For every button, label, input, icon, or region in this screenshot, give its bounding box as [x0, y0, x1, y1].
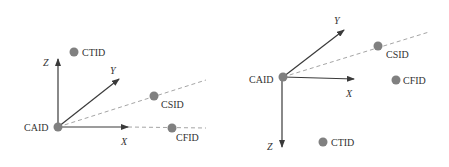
right-point-csid: [374, 42, 383, 51]
left-frame: Z Y X CAID CTID CSID CFID: [24, 47, 206, 147]
left-dashed-line-csid: [58, 80, 206, 127]
left-origin-label: CAID: [24, 122, 48, 133]
left-dashed-line-cfid: [128, 127, 206, 128]
right-z-label: Z: [267, 141, 273, 152]
right-x-label: X: [345, 88, 353, 99]
left-y-axis: [58, 79, 119, 127]
right-label-csid: CSID: [386, 49, 409, 60]
left-label-csid: CSID: [161, 99, 184, 110]
right-point-ctid: [319, 138, 328, 147]
left-point-ctid: [70, 48, 79, 57]
left-origin-point: [54, 123, 63, 132]
coordinate-frames-diagram: Z Y X CAID CTID CSID CFID Y X Z CAID CSI…: [0, 0, 449, 167]
left-label-ctid: CTID: [82, 47, 105, 58]
left-label-cfid: CFID: [176, 132, 199, 143]
right-point-cfid: [392, 76, 401, 85]
left-point-csid: [150, 92, 159, 101]
left-x-label: X: [120, 136, 128, 147]
right-label-ctid: CTID: [331, 137, 354, 148]
right-origin-point: [279, 73, 288, 82]
right-x-axis: [283, 77, 354, 79]
right-y-axis: [283, 30, 344, 77]
right-frame: Y X Z CAID CSID CFID CTID: [249, 15, 429, 152]
right-y-label: Y: [334, 15, 341, 26]
left-z-label: Z: [43, 57, 49, 68]
right-origin-label: CAID: [249, 74, 273, 85]
left-y-label: Y: [110, 65, 117, 76]
right-label-cfid: CFID: [403, 75, 426, 86]
